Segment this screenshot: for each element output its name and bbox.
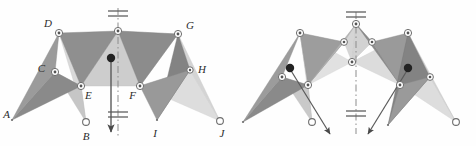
joint-label-i: I	[152, 127, 158, 139]
joint-marker-r-upper-left	[296, 29, 303, 36]
joint-label-b: B	[83, 130, 90, 142]
joint-marker-r-apex	[352, 20, 359, 27]
joint-marker-r-open-left	[309, 119, 316, 126]
joint-marker-e	[77, 82, 84, 89]
joint-marker-r-upper-right	[404, 29, 411, 36]
joint-marker-top-center	[114, 27, 121, 34]
joint-marker-r-left	[278, 73, 285, 80]
right-panel	[242, 12, 460, 134]
left-panel: A B C D E F G H I J	[2, 8, 225, 142]
joint-label-g: G	[186, 19, 194, 31]
joint-label-c: C	[38, 62, 46, 74]
coupler-point-left	[107, 54, 115, 62]
joint-marker-a	[11, 119, 13, 121]
joint-marker-c	[51, 68, 58, 75]
joint-marker-b	[83, 119, 90, 126]
joint-label-e: E	[84, 89, 92, 101]
joint-marker-j	[217, 118, 224, 125]
joint-label-f: F	[128, 89, 136, 101]
link-triangle-dark-r2	[243, 33, 300, 122]
joint-label-d: D	[43, 17, 52, 29]
coupler-point-right-a	[286, 64, 294, 72]
joint-marker-r-mid-right	[369, 39, 376, 46]
joint-label-a: A	[2, 108, 10, 120]
joint-marker-r-center	[348, 58, 355, 65]
joint-marker-r-right	[427, 74, 434, 81]
joint-marker-d	[55, 29, 62, 36]
joint-marker-h	[187, 67, 193, 73]
coupler-point-right-b	[404, 64, 412, 72]
figure-canvas: A B C D E F G H I J	[0, 0, 476, 146]
joint-marker-i	[156, 119, 158, 121]
joint-marker-r-mid-left	[341, 39, 348, 46]
joint-marker-r-pin-left	[242, 121, 244, 123]
diagram-svg: A B C D E F G H I J	[0, 0, 476, 146]
joint-marker-f	[136, 82, 143, 89]
joint-marker-r-inner-right	[396, 81, 403, 88]
joint-marker-r-pin-right	[387, 124, 389, 126]
joint-label-j: J	[220, 127, 226, 139]
joint-marker-r-open-right	[453, 119, 460, 126]
right-dark-links	[243, 24, 430, 125]
joint-label-h: H	[197, 63, 207, 75]
joint-marker-g	[174, 30, 181, 37]
joint-marker-r-inner-left	[304, 81, 311, 88]
